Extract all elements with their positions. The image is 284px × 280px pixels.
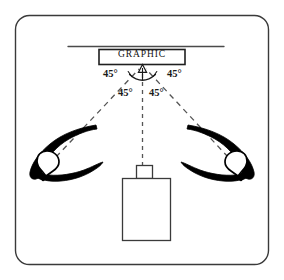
- lamp-right: [181, 125, 254, 181]
- lighting-setup-diagram: GRAPHIC 45° 45° 45° 45°: [0, 0, 284, 280]
- diagram-canvas: [0, 0, 284, 280]
- angle-label-mid-left: 45°: [118, 88, 133, 99]
- angle-label-top-left: 45°: [103, 69, 118, 80]
- light-ray-right: [146, 69, 228, 157]
- light-ray-left: [56, 69, 139, 157]
- angle-label-top-right: 45°: [167, 69, 182, 80]
- lamp-left: [30, 125, 103, 181]
- camera-body: [123, 179, 171, 241]
- graphic-label: GRAPHIC: [98, 50, 186, 60]
- camera-lens: [137, 166, 153, 179]
- angle-label-mid-right: 45°: [149, 88, 164, 99]
